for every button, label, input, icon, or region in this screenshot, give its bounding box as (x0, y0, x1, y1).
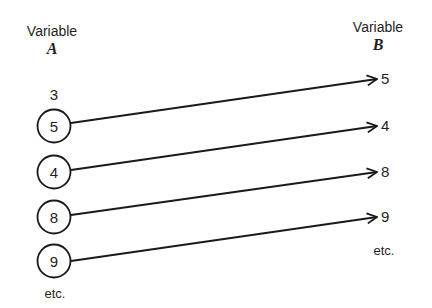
mapping-arrow (71, 172, 377, 215)
svg-text:8: 8 (50, 209, 58, 226)
left-value-node: 8 (38, 201, 71, 234)
left-variable-name: A (46, 40, 58, 57)
mapping-diagram: Variable A 3 5 4 8 9 etc. Variable B 5 4… (0, 0, 432, 308)
mapping-arrow (71, 126, 377, 170)
left-value-node: 9 (38, 245, 71, 278)
left-etc-label: etc. (45, 286, 66, 301)
right-value: 4 (381, 117, 389, 134)
svg-text:9: 9 (50, 253, 58, 270)
svg-text:5: 5 (50, 118, 58, 135)
right-value: 9 (381, 208, 389, 225)
svg-text:4: 4 (50, 164, 58, 181)
mapping-arrow (71, 79, 377, 123)
left-value-node: 5 (38, 110, 71, 143)
right-value: 5 (381, 70, 389, 87)
right-header-label: Variable (353, 19, 404, 35)
right-etc-label: etc. (374, 243, 395, 258)
mapping-arrow (71, 217, 377, 261)
left-header-label: Variable (27, 23, 78, 39)
right-variable-name: B (372, 36, 384, 53)
left-unmapped-value: 3 (50, 86, 58, 103)
left-value-node: 4 (38, 156, 71, 189)
right-value: 8 (381, 163, 389, 180)
